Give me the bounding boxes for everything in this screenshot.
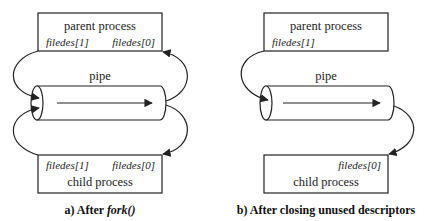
- parent-read-arc: [163, 52, 187, 101]
- parent-process-title: parent process: [290, 19, 362, 33]
- parent-fd-write: filedes[1]: [46, 36, 89, 48]
- pipe-cylinder-b: [260, 86, 394, 120]
- pipe-label: pipe: [315, 69, 337, 83]
- parent-process-box-a: parent process filedes[1] filedes[0]: [38, 13, 162, 51]
- child-fd-read: filedes[0]: [112, 159, 155, 171]
- pipe-diagram: parent process filedes[1] filedes[0] pip…: [0, 0, 427, 221]
- pipe-cylinder-a: [31, 86, 166, 120]
- parent-fd-write: filedes[1]: [272, 36, 315, 48]
- child-process-box-a: filedes[1] filedes[0] child process: [38, 155, 162, 193]
- child-process-title: child process: [293, 175, 359, 189]
- child-process-box-b: filedes[0] child process: [264, 155, 388, 193]
- diagram-b: parent process filedes[1] pipe filedes[0…: [237, 13, 416, 217]
- caption-b: b) After closing unused descriptors: [237, 203, 416, 217]
- diagram-a: parent process filedes[1] filedes[0] pip…: [13, 13, 187, 217]
- caption-a: a) After fork(): [64, 203, 135, 217]
- parent-process-box-b: parent process filedes[1]: [264, 13, 388, 51]
- child-read-arc: [163, 105, 187, 154]
- pipe-label: pipe: [89, 69, 111, 83]
- parent-process-title: parent process: [64, 19, 136, 33]
- child-process-title: child process: [67, 175, 133, 189]
- child-fd-read: filedes[0]: [338, 159, 381, 171]
- parent-fd-read: filedes[0]: [112, 36, 155, 48]
- child-fd-write: filedes[1]: [46, 159, 89, 171]
